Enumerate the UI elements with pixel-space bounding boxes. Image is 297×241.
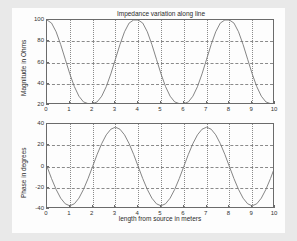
x-tick-mark — [206, 101, 207, 104]
x-tick-label: 2 — [90, 106, 93, 113]
x-tick-label: 4 — [136, 106, 139, 113]
y-tick-mark — [46, 166, 49, 167]
x-tick-mark — [251, 205, 252, 208]
x-tick-mark — [137, 205, 138, 208]
x-tick-mark — [69, 205, 70, 208]
x-tick-mark — [114, 101, 115, 104]
x-tick-label: 10 — [271, 106, 278, 113]
x-tick-mark — [137, 101, 138, 104]
y-tick-label: 20 — [29, 101, 44, 108]
x-tick-mark — [160, 205, 161, 208]
figure-window: Impedance variation along line Magnitude… — [0, 0, 297, 241]
x-tick-mark — [114, 205, 115, 208]
x-tick-mark — [274, 205, 275, 208]
x-tick-mark — [92, 205, 93, 208]
phase-x-axis-label: length from source in meters — [46, 215, 274, 222]
x-tick-label: 0 — [44, 106, 47, 113]
y-tick-label: 80 — [29, 37, 44, 44]
y-tick-mark — [46, 62, 49, 63]
figure-canvas: Impedance variation along line Magnitude… — [12, 8, 285, 233]
magnitude-plot-area[interactable] — [46, 19, 274, 104]
y-tick-mark — [46, 123, 49, 124]
x-tick-mark — [92, 101, 93, 104]
x-tick-mark — [228, 101, 229, 104]
x-tick-label: 3 — [113, 106, 116, 113]
x-tick-mark — [69, 101, 70, 104]
y-tick-label: -20 — [29, 183, 44, 190]
y-tick-label: 0 — [29, 162, 44, 169]
phase-curve — [47, 124, 274, 208]
x-tick-label: 5 — [158, 106, 161, 113]
y-tick-label: 60 — [29, 58, 44, 65]
x-tick-label: 7 — [204, 106, 207, 113]
phase-plot-area[interactable] — [46, 123, 274, 208]
phase-y-axis-label: Phase in degrees — [20, 147, 27, 198]
magnitude-y-axis-label: Magnitude in Ohms — [20, 40, 27, 96]
magnitude-curve — [47, 20, 274, 104]
x-tick-mark — [228, 205, 229, 208]
y-tick-label: -40 — [29, 205, 44, 212]
y-tick-mark — [46, 19, 49, 20]
x-tick-label: 6 — [181, 106, 184, 113]
x-tick-mark — [251, 101, 252, 104]
y-tick-label: 40 — [29, 120, 44, 127]
x-tick-label: 8 — [227, 106, 230, 113]
y-tick-label: 100 — [29, 16, 44, 23]
y-tick-mark — [46, 104, 49, 105]
y-tick-mark — [46, 40, 49, 41]
y-tick-label: 20 — [29, 141, 44, 148]
x-tick-mark — [183, 101, 184, 104]
y-tick-mark — [46, 187, 49, 188]
y-tick-mark — [46, 144, 49, 145]
magnitude-plot-title: Impedance variation along line — [46, 10, 276, 17]
y-tick-mark — [46, 83, 49, 84]
y-tick-mark — [46, 208, 49, 209]
x-tick-label: 9 — [250, 106, 253, 113]
x-tick-label: 1 — [67, 106, 70, 113]
x-tick-mark — [183, 205, 184, 208]
y-tick-label: 40 — [29, 79, 44, 86]
x-tick-mark — [274, 101, 275, 104]
x-tick-mark — [160, 101, 161, 104]
x-tick-mark — [206, 205, 207, 208]
